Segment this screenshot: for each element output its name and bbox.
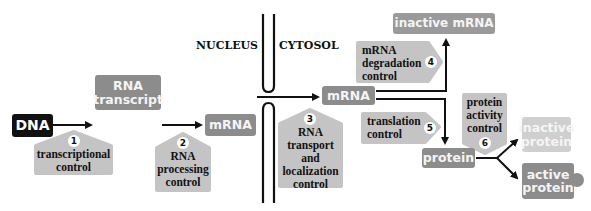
control-2-line: processing	[155, 163, 211, 176]
control-6-line: control	[462, 122, 507, 135]
control-1-line: transcriptional	[36, 148, 111, 161]
control-text-5: translation control	[367, 115, 421, 141]
node-mrna-cytosol: mRNA	[322, 86, 375, 105]
control-number-3: 3	[304, 113, 316, 125]
control-text-3: RNA transport and localization control	[278, 126, 343, 190]
control-3-line: control	[278, 178, 343, 191]
control-text-4: mRNA degradation control	[362, 44, 421, 83]
node-inactive-protein-line1: inactive	[519, 121, 575, 134]
control-1-line: control	[36, 161, 111, 174]
control-2-line: RNA	[155, 150, 211, 163]
control-number-6: 6	[479, 137, 491, 149]
node-mrna-nucleus: mRNA	[205, 114, 256, 136]
control-2-line: control	[155, 176, 211, 189]
arrow-to-active-protein	[497, 158, 517, 178]
control-5-line: translation	[367, 115, 421, 128]
control-4-line: degradation	[362, 57, 421, 70]
nuclear-envelope-lower	[263, 103, 274, 203]
node-active-protein-line2: protein	[522, 181, 573, 194]
control-5-line: control	[367, 128, 421, 141]
cytosol-label: CYTOSOL	[279, 39, 339, 52]
control-text-2: RNA processing control	[155, 150, 211, 189]
control-3-line: RNA	[278, 126, 343, 139]
node-rna-transcript-line1: RNA	[113, 79, 143, 92]
control-number-5: 5	[424, 122, 436, 134]
control-3-line: localization	[278, 165, 343, 178]
control-6-line: activity	[462, 109, 507, 122]
control-number-2: 2	[177, 137, 189, 149]
control-text-1: transcriptional control	[36, 148, 111, 174]
control-3-line: transport	[278, 139, 343, 152]
node-dna: DNA	[12, 114, 53, 137]
node-inactive-mrna: inactive mRNA	[393, 13, 495, 34]
node-protein-label: protein	[423, 151, 474, 164]
control-3-line: and	[278, 152, 343, 165]
control-4-line: mRNA	[362, 44, 421, 57]
node-protein: protein	[422, 148, 475, 168]
control-6-line: protein	[462, 96, 507, 109]
control-number-1: 1	[68, 135, 80, 147]
nuclear-envelope-upper	[263, 14, 274, 92]
control-4-line: control	[362, 70, 421, 83]
node-dna-label: DNA	[15, 118, 49, 133]
node-rna-transcript-line2: transcript	[93, 93, 163, 106]
node-mrna-nucleus-label: mRNA	[209, 118, 252, 131]
node-rna-transcript: RNA transcript	[95, 75, 161, 110]
node-inactive-mrna-label: inactive mRNA	[395, 17, 494, 30]
control-number-4: 4	[425, 56, 437, 68]
node-inactive-protein: inactive protein	[522, 117, 571, 152]
nucleus-label: NUCLEUS	[196, 39, 258, 52]
control-text-6: protein activity control	[462, 96, 507, 135]
node-active-protein: active protein	[522, 163, 574, 199]
node-mrna-cytosol-label: mRNA	[327, 89, 370, 102]
node-inactive-protein-line2: protein	[521, 135, 572, 148]
